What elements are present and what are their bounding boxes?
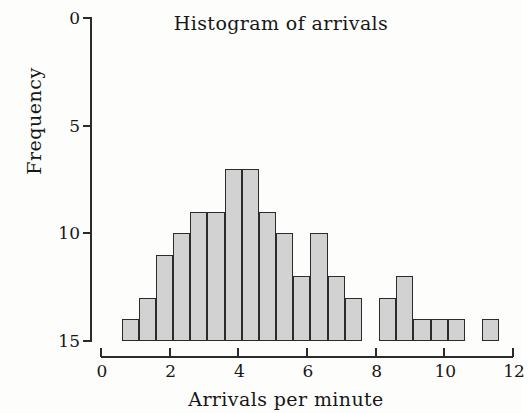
histogram-bar xyxy=(156,255,173,341)
y-axis-tick xyxy=(83,17,92,19)
x-axis-tick xyxy=(443,348,445,357)
x-axis-tick-label: 12 xyxy=(494,361,528,381)
histogram-bar xyxy=(173,233,190,341)
y-axis-tick-label-wrap: 10 xyxy=(28,233,80,234)
x-axis-tick-label: 6 xyxy=(288,361,328,381)
x-axis-tick-label: 2 xyxy=(151,361,191,381)
histogram-bar xyxy=(207,212,224,341)
histogram-bar xyxy=(276,233,293,341)
histogram-bar xyxy=(413,319,430,341)
y-axis-tick-label: 10 xyxy=(40,223,80,243)
y-axis-tick xyxy=(83,340,92,342)
y-axis-tick-label: 15 xyxy=(40,331,80,351)
x-axis-tick xyxy=(306,348,308,357)
histogram-bar xyxy=(396,276,413,341)
y-axis-tick-label-wrap: 5 xyxy=(28,126,80,127)
x-axis-tick xyxy=(169,348,171,357)
y-axis-tick-label: 0 xyxy=(40,8,80,28)
y-axis-tick-label-wrap: 15 xyxy=(28,341,80,342)
y-axis-tick-label: 5 xyxy=(40,116,80,136)
x-axis-tick-label: 0 xyxy=(82,361,122,381)
x-axis-tick-label: 10 xyxy=(425,361,465,381)
x-axis-tick-label: 4 xyxy=(219,361,259,381)
histogram-bar xyxy=(431,319,448,341)
y-axis-tick xyxy=(83,232,92,234)
histogram-bar xyxy=(328,276,345,341)
y-axis-tick xyxy=(83,125,92,127)
x-axis-tick xyxy=(237,348,239,357)
histogram-bar xyxy=(190,212,207,341)
histogram-bar xyxy=(448,319,465,341)
histogram-bar xyxy=(225,169,242,341)
x-axis-tick xyxy=(375,348,377,357)
x-axis-label: Arrivals per minute xyxy=(0,388,522,410)
histogram-bar xyxy=(310,233,327,341)
histogram-bar xyxy=(293,276,310,341)
histogram-bar xyxy=(345,298,362,341)
histogram-bar xyxy=(122,319,139,341)
y-axis-spine xyxy=(90,18,92,341)
x-axis-tick-label: 8 xyxy=(357,361,397,381)
histogram-bar xyxy=(482,319,499,341)
histogram-bar xyxy=(139,298,156,341)
histogram-bar xyxy=(259,212,276,341)
x-axis-tick xyxy=(100,348,102,357)
x-axis-tick xyxy=(512,348,514,357)
histogram-bar xyxy=(379,298,396,341)
histogram-bar xyxy=(242,169,259,341)
y-axis-tick-label-wrap: 0 xyxy=(28,18,80,19)
